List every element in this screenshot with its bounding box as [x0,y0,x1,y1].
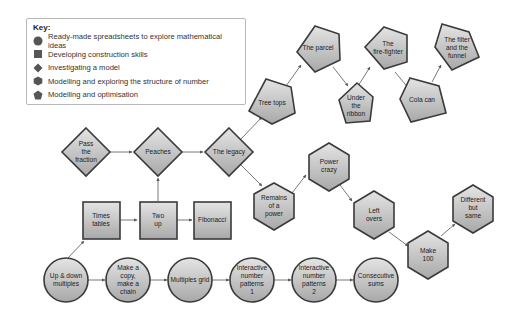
label-the-parcel: The parcel [302,44,333,52]
label-peaches: Peaches [145,148,171,156]
edge-make100-diff [441,224,455,236]
square-icon [33,49,43,59]
key-item-pentagon: Modelling and optimisation [33,88,239,102]
label-the-legacy: The legacy [213,148,245,156]
circle-icon [33,36,43,46]
key-item-label: Investigating a model [48,63,120,72]
key-title: Key: [33,23,239,32]
label-tree-tops: Tree tops [258,99,286,107]
edge-remains-power [292,175,306,193]
label-times-tables: Times tables [92,212,110,228]
label-the-filter-and-funnel: The filter and the funnel [444,36,470,60]
label-power-crazy: Power crazy [320,158,339,174]
key-item-circle: Ready-made spreadsheets to explore mathe… [33,34,239,48]
key-item-label: Modelling and optimisation [48,90,138,99]
key-item-label: Developing construction skills [48,50,148,59]
pentagon-icon [33,90,43,100]
label-interactive-2: Interactive number patterns 2 [299,264,329,296]
key-item-hexagon: Modelling and exploring the structure of… [33,75,239,89]
key-item-label: Ready-made spreadsheets to explore mathe… [48,32,239,50]
label-pass-the-fraction: Pass the fraction [75,140,97,164]
edge-left-make100 [389,232,408,246]
label-up-down-multiples: Up & down multiples [50,272,82,288]
label-make-100: Make 100 [420,247,436,263]
edge-parcel-ribbon [333,67,348,86]
label-under-the-ribbon: Under the ribbon [347,94,365,118]
diamond-icon [33,63,43,73]
label-cola-can: Cola can [409,96,435,104]
label-consecutive-sums: Consecutive sums [358,272,394,288]
edge-power-left [340,185,352,201]
edge-legacy-remains [241,165,262,186]
key-item-label: Modelling and exploring the structure of… [48,77,209,86]
label-different-but-same: Different but same [461,196,486,220]
label-make-a-copy: Make a copy, make a chain [117,264,139,296]
edge-treetops-parcel [286,65,301,86]
label-multiples-grid: Multiples grid [171,276,210,284]
label-remains-of-a-power: Remains of a power [261,194,287,218]
edge-updown-times [67,241,84,259]
key-legend: Key: Ready-made spreadsheets to explore … [26,18,246,105]
key-item-diamond: Investigating a model [33,61,239,75]
label-left-overs: Left overs [366,207,382,223]
label-two-up: Two up [152,212,164,228]
hexagon-icon [33,76,43,86]
label-fibonacci: Fibonacci [198,216,226,224]
label-interactive-1: Interactive number patterns 1 [237,264,267,296]
edge-legacy-treetops [241,117,262,139]
edge-cola-filter [432,65,441,82]
label-the-fire-fighter: The fire-fighter [373,40,403,56]
edge-ribbon-fire [358,67,370,86]
